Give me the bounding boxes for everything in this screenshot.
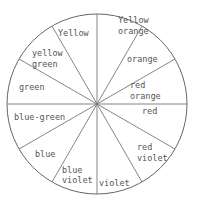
segment-label: orange — [118, 26, 149, 36]
segment-divider — [97, 104, 175, 149]
segment-label: red — [130, 80, 145, 90]
segment-label: green — [32, 59, 58, 69]
segment-label: red — [142, 106, 157, 116]
segment-label: red — [137, 142, 152, 152]
segment-divider — [97, 104, 142, 182]
segment-label: violet — [99, 178, 130, 188]
segment-label: orange — [130, 91, 161, 101]
segment-label: blue-green — [14, 112, 65, 122]
segment-label: Yellow — [118, 15, 150, 25]
segment-label: orange — [127, 54, 158, 64]
color-wheel-diagram: Yelloworangeorangeredorangeredredvioletv… — [0, 0, 199, 210]
segment-divider — [19, 104, 97, 149]
segment-label: violet — [137, 153, 168, 163]
segment-label: green — [19, 82, 45, 92]
segment-label: violet — [62, 175, 93, 185]
segment-label: yellow — [32, 48, 64, 58]
segment-label: blue — [35, 149, 55, 159]
segment-label: Yellow — [58, 28, 90, 38]
segment-label: blue — [62, 165, 82, 175]
